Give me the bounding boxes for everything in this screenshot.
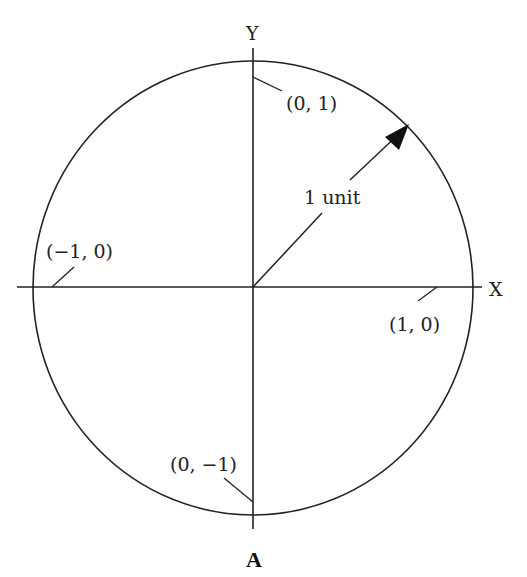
leader-1-0 xyxy=(418,287,437,301)
figure-caption: A xyxy=(246,547,262,572)
unit-circle-diagram: Y X (0, 1) (−1, 0) (1, 0) (0, −1) 1 unit… xyxy=(0,0,527,577)
leader-0-1 xyxy=(253,77,282,91)
point-label-neg1-0: (−1, 0) xyxy=(46,240,113,262)
leader-neg1-0 xyxy=(52,267,74,287)
arrowhead-icon xyxy=(385,124,409,150)
point-label-0-1: (0, 1) xyxy=(286,92,337,114)
radius-line-lower xyxy=(253,213,322,287)
point-label-0-neg1: (0, −1) xyxy=(170,453,237,475)
y-axis-label: Y xyxy=(245,22,259,44)
x-axis-label: X xyxy=(489,278,503,300)
radius-label: 1 unit xyxy=(304,186,361,208)
point-label-1-0: (1, 0) xyxy=(389,313,440,335)
leader-0-neg1 xyxy=(224,478,253,502)
